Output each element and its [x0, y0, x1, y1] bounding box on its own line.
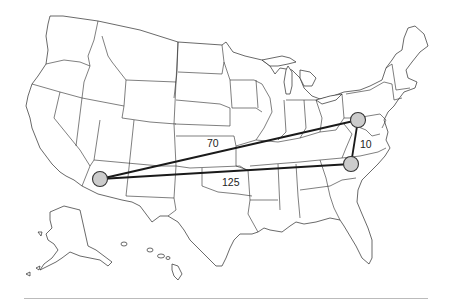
point-north-carolina[interactable]: [344, 157, 359, 172]
alaska: [40, 206, 112, 270]
bottom-divider: [24, 298, 428, 299]
alaska-islands: [26, 232, 42, 276]
point-arizona[interactable]: [93, 172, 108, 187]
distance-label-pennsylvania-north-carolina: 10: [360, 139, 372, 150]
distance-label-arizona-pennsylvania: 70: [207, 138, 219, 149]
point-pennsylvania[interactable]: [351, 113, 366, 128]
us-map-diagram: 70 125 10: [0, 0, 450, 301]
distance-label-arizona-north-carolina: 125: [222, 177, 240, 188]
us-map-svg: [0, 0, 450, 301]
hawaii: [121, 242, 182, 280]
